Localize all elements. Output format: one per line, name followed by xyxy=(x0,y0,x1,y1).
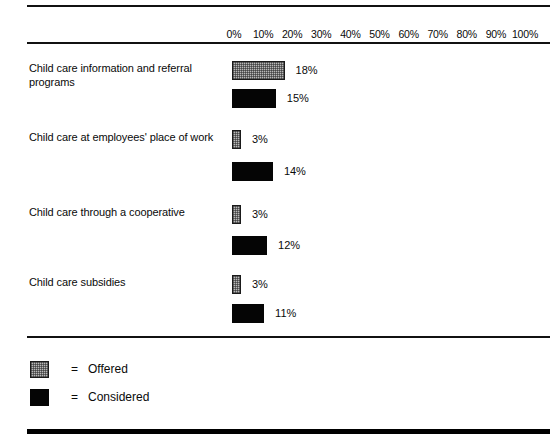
bar-value-considered: 12% xyxy=(278,236,300,255)
bar-considered xyxy=(232,304,264,323)
bar-value-considered: 11% xyxy=(275,304,296,323)
bar-considered xyxy=(232,89,276,108)
bar-considered xyxy=(232,162,273,181)
bar-value-offered: 3% xyxy=(252,130,268,149)
group-label: Child care subsidies xyxy=(29,275,229,289)
bottom-rule xyxy=(27,429,550,434)
offered-swatch-icon xyxy=(30,361,49,378)
bar-value-considered: 14% xyxy=(284,162,306,181)
legend-equals-offered: = xyxy=(71,361,78,378)
bar-value-offered: 18% xyxy=(296,61,318,80)
bar-value-offered: 3% xyxy=(252,275,268,294)
bar-value-considered: 15% xyxy=(287,89,309,108)
group-label: Child care through a cooperative xyxy=(29,205,229,219)
bar-considered xyxy=(232,236,267,255)
considered-swatch-icon xyxy=(30,389,49,406)
legend-label-offered: Offered xyxy=(88,361,128,378)
legend-rule xyxy=(27,336,550,338)
bar-value-offered: 3% xyxy=(252,205,268,224)
group-label: Child care information and referral prog… xyxy=(29,61,229,89)
legend-label-considered: Considered xyxy=(88,389,149,406)
legend-equals-considered: = xyxy=(71,389,78,406)
bar-offered xyxy=(232,275,241,294)
group-label: Child care at employees' place of work xyxy=(29,130,229,144)
bar-offered xyxy=(232,205,241,224)
chart-figure: 0%10%20%30%40%50%60%70%80%90%100% Child … xyxy=(0,0,555,445)
bar-offered xyxy=(232,61,285,80)
bar-groups: Child care information and referral prog… xyxy=(0,0,555,445)
bar-offered xyxy=(232,130,241,149)
